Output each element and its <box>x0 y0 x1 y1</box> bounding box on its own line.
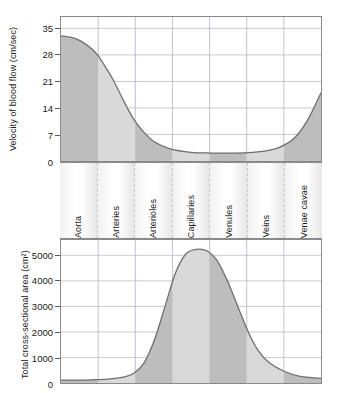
vessel-segment-label: Arterioles <box>148 195 158 238</box>
axis-tick-mark <box>55 255 60 256</box>
axis-tick-mark <box>55 54 60 55</box>
axis-tick-mark <box>55 135 60 136</box>
curve-fill-region <box>61 240 321 383</box>
blood-flow-figure: Velocity of blood flow (cm/sec) 07142128… <box>0 0 337 393</box>
axis-tick-label: 7 <box>48 130 53 141</box>
vessel-segment-label: Venules <box>224 201 234 238</box>
vessel-segment-venae-cavae: Venae cavae <box>285 163 322 238</box>
axis-tick-mark <box>55 332 60 333</box>
vessel-segment-arterioles: Arterioles <box>135 163 173 238</box>
axis-tick-label: 4000 <box>32 275 53 286</box>
fill-band <box>247 240 284 383</box>
cross-sectional-area-curve <box>61 240 321 383</box>
area-tick-labels: 010002000300040005000 <box>0 239 53 384</box>
fill-band <box>284 240 321 383</box>
vessel-segment-capillaries: Capillaries <box>173 163 211 238</box>
fill-band <box>172 17 209 161</box>
axis-tick-label: 35 <box>42 22 53 33</box>
vessel-segment-label: Capillaries <box>186 191 196 238</box>
axis-tick-label: 0 <box>48 157 53 168</box>
fill-band <box>210 17 247 161</box>
axis-tick-mark <box>55 280 60 281</box>
fill-band <box>172 240 209 383</box>
vessel-segment-label: Arteries <box>111 202 121 238</box>
fill-band <box>61 17 98 161</box>
axis-tick-mark <box>55 28 60 29</box>
fill-band <box>98 17 135 161</box>
page-artifact <box>4 2 46 11</box>
axis-tick-label: 0 <box>48 379 53 390</box>
velocity-curve <box>61 17 321 161</box>
axis-tick-mark <box>55 358 60 359</box>
axis-tick-mark <box>55 306 60 307</box>
cross-sectional-area-plot <box>60 239 322 384</box>
fill-band <box>284 17 321 161</box>
axis-tick-label: 3000 <box>32 301 53 312</box>
axis-tick-label: 21 <box>42 76 53 87</box>
fill-band <box>135 17 172 161</box>
axis-tick-label: 1000 <box>32 353 53 364</box>
axis-tick-label: 14 <box>42 103 53 114</box>
axis-tick-label: 2000 <box>32 327 53 338</box>
axis-tick-mark <box>55 81 60 82</box>
fill-band <box>135 240 172 383</box>
vessel-segment-label: Venae cavae <box>299 181 309 238</box>
vessel-segment-band: AortaArteriesArteriolesCapillariesVenule… <box>60 163 322 238</box>
vessel-segment-arteries: Arteries <box>98 163 136 238</box>
axis-tick-label: 28 <box>42 49 53 60</box>
vessel-segment-veins: Veins <box>248 163 286 238</box>
fill-band <box>61 240 98 383</box>
fill-band <box>98 240 135 383</box>
velocity-plot <box>60 16 322 162</box>
fill-band <box>210 240 247 383</box>
axis-tick-label: 5000 <box>32 249 53 260</box>
fill-band <box>247 17 284 161</box>
vessel-segment-venules: Venules <box>210 163 248 238</box>
vessel-segment-aorta: Aorta <box>60 163 98 238</box>
curve-fill-region <box>61 17 321 161</box>
vessel-segment-label: Aorta <box>73 212 83 238</box>
axis-tick-mark <box>55 108 60 109</box>
vessel-segment-label: Veins <box>261 211 271 238</box>
velocity-tick-labels: 0714212835 <box>0 16 53 162</box>
